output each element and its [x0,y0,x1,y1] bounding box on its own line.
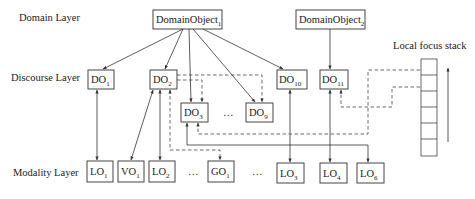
discourse-object-1: DO1 [88,70,114,89]
modality-layer-label: Modality Layer [13,167,79,178]
local-focus-stack [421,59,437,156]
modality-vo-1: VO1 [118,161,144,182]
modality-ellipsis-2: … [252,166,263,177]
modality-lo-6: LO6 [357,163,384,183]
discourse-object-11: DO11 [320,70,348,89]
domain-object-2: DomainObject2 [296,10,365,29]
domain-object-1: DomainObject1 [153,10,222,29]
modality-go-1: GO1 [208,161,234,182]
do2-dashed-links [177,75,262,102]
modality-lo-3: LO3 [277,163,304,183]
discourse-layer-label: Discourse Layer [11,72,81,83]
modality-lo-4: LO4 [320,163,347,183]
modality-lo-2: LO2 [149,161,175,182]
focus-stack-label: Local focus stack [393,40,467,51]
discourse-modality-links [97,90,368,162]
discourse-object-3: DO3 [181,103,208,122]
layered-discourse-diagram: Domain Layer Discourse Layer Modality La… [0,0,475,199]
discourse-object-9: DO9 [246,103,273,122]
discourse-object-10: DO10 [277,70,307,89]
modality-lo-1: LO1 [87,161,113,182]
discourse-ellipsis: … [223,107,234,118]
modality-ellipsis-1: … [188,166,199,177]
domain-to-discourse-links [103,29,330,102]
domain-layer-label: Domain Layer [19,12,80,23]
discourse-object-2: DO2 [150,70,177,89]
